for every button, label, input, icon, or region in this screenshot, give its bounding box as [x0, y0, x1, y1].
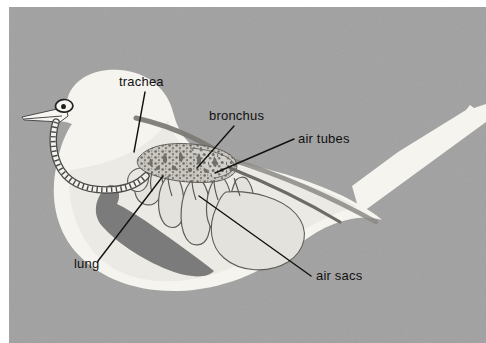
border-left-strip: [0, 0, 9, 343]
label-bronchus: bronchus: [209, 108, 264, 123]
eye: [56, 100, 73, 113]
label-air-sacs: air sacs: [316, 268, 363, 283]
label-trachea: trachea: [119, 74, 164, 89]
border-top-strip: [0, 0, 486, 7]
label-lung: lung: [74, 256, 99, 271]
bird-respiratory-diagram: trachea bronchus air tubes lung air sacs: [0, 0, 486, 343]
label-air-tubes: air tubes: [298, 131, 350, 146]
air-sac-lobe-2: [159, 175, 185, 228]
